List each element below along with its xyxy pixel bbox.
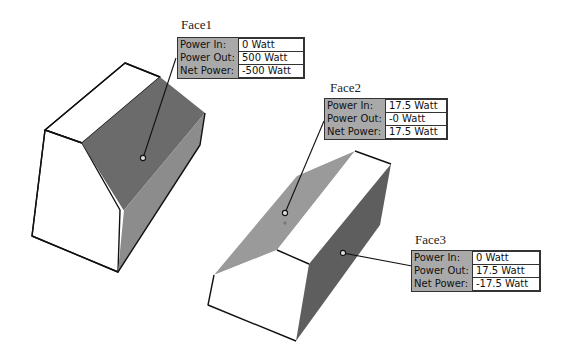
face1-label: Face1 <box>181 18 212 31</box>
callout-row: Power In: 0 Watt <box>178 39 303 52</box>
power-out-value: -0 Watt <box>385 113 446 126</box>
face2-label: Face2 <box>330 81 361 94</box>
power-in-value: 0 Watt <box>238 39 303 52</box>
solid-2-end-face <box>208 250 309 341</box>
net-power-value: 17.5 Watt <box>385 126 446 139</box>
power-in-label: Power In: <box>178 39 238 52</box>
power-out-value: 500 Watt <box>238 52 303 65</box>
marker-face1 <box>140 155 145 160</box>
power-out-label: Power Out: <box>325 113 385 126</box>
face3-callout: Power In: 0 Watt Power Out: 17.5 Watt Ne… <box>411 250 541 292</box>
solid-1 <box>32 63 205 272</box>
net-power-value: -500 Watt <box>238 65 303 78</box>
net-power-label: Net Power: <box>325 126 385 139</box>
power-in-value: 17.5 Watt <box>385 100 446 113</box>
callout-row: Power Out: -0 Watt <box>325 113 446 126</box>
net-power-label: Net Power: <box>178 65 238 78</box>
marker-face3 <box>340 250 345 255</box>
power-in-label: Power In: <box>325 100 385 113</box>
power-in-value: 0 Watt <box>472 252 539 265</box>
power-in-label: Power In: <box>412 252 472 265</box>
callout-row: Net Power: -500 Watt <box>178 65 303 78</box>
face3-label: Face3 <box>415 233 446 246</box>
power-out-label: Power Out: <box>178 52 238 65</box>
power-out-value: 17.5 Watt <box>472 265 539 278</box>
marker-face2 <box>282 210 287 215</box>
callout-row: Net Power: -17.5 Watt <box>412 278 539 291</box>
net-power-label: Net Power: <box>412 278 472 291</box>
callout-row: Power Out: 500 Watt <box>178 52 303 65</box>
face2-callout: Power In: 17.5 Watt Power Out: -0 Watt N… <box>324 98 448 140</box>
callout-row: Power Out: 17.5 Watt <box>412 265 539 278</box>
face1-callout: Power In: 0 Watt Power Out: 500 Watt Net… <box>177 37 305 79</box>
callout-row: Power In: 17.5 Watt <box>325 100 446 113</box>
net-power-value: -17.5 Watt <box>472 278 539 291</box>
callout-row: Net Power: 17.5 Watt <box>325 126 446 139</box>
power-out-label: Power Out: <box>412 265 472 278</box>
callout-row: Power In: 0 Watt <box>412 252 539 265</box>
